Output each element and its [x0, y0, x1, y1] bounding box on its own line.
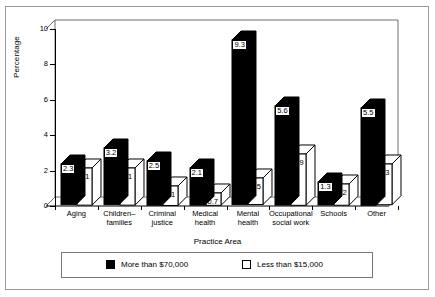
y-axis: 0 2 4 6 8 10 [46, 29, 55, 206]
bar-value-label: 2.1 [121, 173, 133, 181]
x-axis-title: Practice Area [0, 237, 435, 246]
bar-value-label: 2.3 [61, 164, 75, 174]
bar-value-label: 2.5 [147, 161, 161, 171]
bar-value-label: 9.3 [232, 40, 246, 50]
bar-high-income[interactable] [231, 41, 246, 206]
bar-3d-shape [231, 30, 257, 206]
y-tick-label: 10 [40, 25, 48, 33]
legend-swatch-dark [106, 260, 115, 269]
bar-value-label: 1.2 [335, 189, 347, 197]
bar-group: 5.62.9 [274, 20, 305, 206]
bar-value-label: 2.3 [378, 169, 390, 177]
bar-value-label: 2.9 [292, 159, 304, 167]
chart-figure: Percentage 0 2 4 6 8 [0, 0, 435, 297]
legend-item-high-income: More than $70,000 [106, 260, 188, 269]
bar-value-label: 1.1 [164, 191, 176, 199]
y-tick-label: 8 [44, 60, 48, 68]
legend-label: More than $70,000 [121, 260, 188, 269]
bar-value-label: 2.1 [190, 168, 204, 178]
bar-group: 2.10.7 [189, 20, 220, 206]
bar-value-label: 5.5 [361, 108, 375, 118]
bar-value-label: 1.3 [318, 182, 332, 192]
bar-group: 1.31.2 [317, 20, 348, 206]
bar-group: 3.22.1 [103, 20, 134, 206]
bar-group: 9.31.5 [231, 20, 262, 206]
y-tick-label: 6 [44, 96, 48, 104]
bar-value-label: 5.6 [275, 106, 289, 116]
bar-series-container: 2.32.13.22.12.51.12.10.79.31.55.62.91.31… [55, 20, 398, 206]
y-tick-label: 2 [44, 167, 48, 175]
bar-group: 2.32.1 [60, 20, 91, 206]
bar-group: 5.52.3 [360, 20, 391, 206]
legend-label: Less than $15,000 [257, 260, 323, 269]
chart-legend: More than $70,000 Less than $15,000 [61, 252, 373, 278]
bar-high-income[interactable] [360, 109, 375, 206]
plot-area: 0 2 4 6 8 10 2.32.13.22.12.51.12.10.79.3… [46, 20, 398, 206]
bar-high-income[interactable] [274, 107, 289, 206]
y-tick-label: 4 [44, 131, 48, 139]
bar-value-label: 3.2 [104, 148, 118, 158]
x-category-label: Other [351, 209, 402, 218]
legend-swatch-light [242, 260, 251, 269]
y-axis-title: Percentage [12, 36, 21, 78]
bar-value-label: 2.1 [78, 173, 90, 181]
legend-item-low-income: Less than $15,000 [242, 260, 323, 269]
bar-group: 2.51.1 [146, 20, 177, 206]
bar-value-label: 0.7 [207, 198, 219, 206]
bar-value-label: 1.5 [249, 183, 261, 191]
